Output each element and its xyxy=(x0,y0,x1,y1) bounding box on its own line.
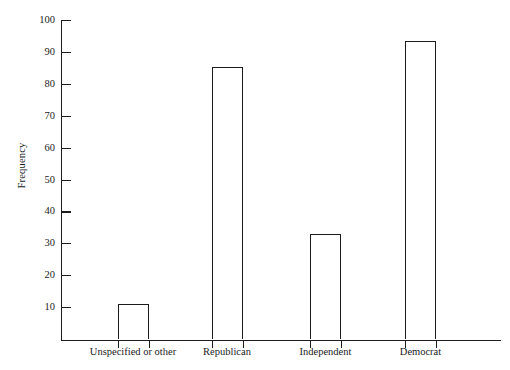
bar xyxy=(212,67,243,340)
x-axis-category-label: Democrat xyxy=(351,345,491,358)
y-axis-title: Frequency xyxy=(16,126,27,206)
bar xyxy=(405,41,436,339)
y-axis-tick xyxy=(62,20,71,21)
x-axis-line xyxy=(61,340,501,341)
y-axis-tick-label: 70 xyxy=(13,111,55,121)
y-axis-tick-label: 50 xyxy=(13,175,55,185)
bar xyxy=(118,304,149,339)
y-axis-tick xyxy=(62,243,71,244)
bar xyxy=(310,234,341,339)
y-axis-tick xyxy=(62,116,71,117)
y-axis-tick xyxy=(62,84,71,85)
bar-chart-figure: Frequency 102030405060708090100 Unspecif… xyxy=(0,0,510,370)
y-axis-tick xyxy=(62,275,71,276)
y-axis-tick-label: 90 xyxy=(13,47,55,57)
y-axis-tick-label: 10 xyxy=(13,302,55,312)
y-axis-tick xyxy=(62,148,71,149)
y-axis-tick-label: 80 xyxy=(13,79,55,89)
y-axis-tick xyxy=(62,52,71,53)
y-axis-tick xyxy=(62,180,71,181)
y-axis-tick xyxy=(62,307,71,308)
y-axis-tick-label: 30 xyxy=(13,238,55,248)
y-axis-tick-label: 20 xyxy=(13,270,55,280)
y-axis-tick-label: 60 xyxy=(13,143,55,153)
y-axis-tick-label: 100 xyxy=(13,15,55,25)
y-axis-tick xyxy=(62,211,71,212)
y-axis-tick-label: 40 xyxy=(13,206,55,216)
